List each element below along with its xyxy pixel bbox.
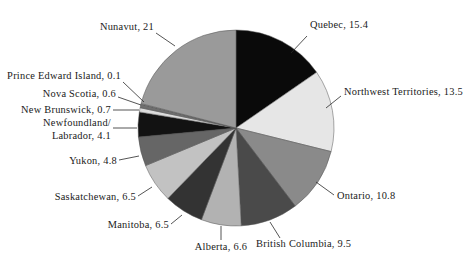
leader-line-british-columbia [270,222,280,238]
leader-line-ontario [316,182,334,195]
leader-line-quebec [291,36,307,53]
pie-label-saskatchewan: Saskatchewan, 6.5 [55,191,136,202]
leader-line-yukon [119,156,139,160]
pie-label-ontario: Ontario, 10.8 [337,190,395,201]
pie-chart-page: Quebec, 15.4 Northwest Territories, 13.5… [0,0,476,256]
pie-label-newfoundland-line2: Labrador, 4.1 [52,130,111,141]
pie-label-alberta: Alberta, 6.6 [195,241,247,252]
pie-label-yukon: Yukon, 4.8 [69,155,117,166]
pie-slices-group [138,30,334,226]
pie-label-manitoba: Manitoba, 6.5 [108,219,169,230]
leader-line-nunavut [156,33,175,46]
pie-label-nunavut: Nunavut, 21 [100,21,154,32]
leader-line-nova-scotia [118,97,141,105]
pie-label-newfoundland-line1: Newfoundland/ [43,117,111,128]
pie-label-northwest-territories: Northwest Territories, 13.5 [344,86,463,97]
pie-label-quebec: Quebec, 15.4 [310,19,369,30]
pie-label-new-brunswick: New Brunswick, 0.7 [21,104,111,115]
pie-label-prince-edward-island: Prince Edward Island, 0.1 [7,70,121,81]
leader-line-saskatchewan [138,187,152,196]
leader-line-prince-edward-island [123,82,144,102]
leader-line-manitoba [171,215,182,224]
pie-label-british-columbia: British Columbia, 9.5 [256,238,351,249]
pie-chart-svg: Quebec, 15.4 Northwest Territories, 13.5… [0,0,476,256]
pie-label-nova-scotia: Nova Scotia, 0.6 [43,88,116,99]
